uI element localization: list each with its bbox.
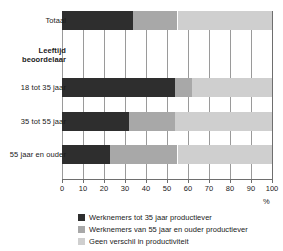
bar-segment: [175, 112, 272, 131]
x-axis-tick: [83, 180, 84, 183]
bar-segment: [192, 78, 272, 97]
bar-segment: [178, 145, 273, 164]
bar-segment: [62, 11, 133, 30]
y-axis-label: 35 tot 55 jaar: [0, 117, 66, 126]
bar-segment: [133, 11, 177, 30]
bar-segment: [62, 112, 129, 131]
legend-item: Werknemers van 55 jaar en ouder producti…: [78, 221, 278, 233]
plot-area: [62, 11, 272, 179]
x-axis-tick: [104, 180, 105, 183]
legend-swatch: [78, 238, 85, 245]
x-axis-tick: [167, 180, 168, 183]
chart-legend: Werknemers tot 35 jaar productieverWerkn…: [78, 209, 278, 245]
legend-label: Geen verschil in productiviteit: [89, 237, 189, 246]
x-axis-tick: [209, 180, 210, 183]
y-axis-group-header: Leeftijdbeoordelaar: [0, 46, 66, 64]
bar-segment: [175, 78, 192, 97]
x-axis-tick: [146, 180, 147, 183]
y-axis-label: 55 jaar en ouder: [0, 150, 66, 159]
bar-segment: [129, 112, 175, 131]
x-axis-tick: [230, 180, 231, 183]
y-axis-group-header-line: beoordelaar: [0, 55, 66, 64]
x-axis-tick: [125, 180, 126, 183]
legend-swatch: [78, 214, 85, 221]
y-axis-label: Totaal: [0, 16, 66, 25]
x-axis-tick: [251, 180, 252, 183]
bar-segment: [62, 145, 110, 164]
bar-segment: [62, 78, 175, 97]
stacked-bar-chart: 0102030405060708090100 TotaalLeeftijdbeo…: [0, 0, 283, 251]
y-axis-group-header-line: Leeftijd: [0, 46, 66, 55]
bar-segment: [110, 145, 177, 164]
y-axis-label: 18 tot 35 jaar: [0, 83, 66, 92]
bar-row: [62, 11, 272, 30]
bar-row: [62, 112, 272, 131]
bar-segment: [178, 11, 273, 30]
x-axis-tick: [272, 180, 273, 183]
legend-item: Geen verschil in productiviteit: [78, 233, 278, 245]
legend-swatch: [78, 226, 85, 233]
legend-item: Werknemers tot 35 jaar productiever: [78, 209, 278, 221]
bar-row: [62, 145, 272, 164]
x-axis-tick: [188, 180, 189, 183]
gridline: [272, 11, 273, 179]
bar-row: [62, 78, 272, 97]
axis-unit-label: %: [263, 197, 270, 206]
x-axis-tick: [62, 180, 63, 183]
x-axis-tick-label: 100: [259, 184, 283, 193]
